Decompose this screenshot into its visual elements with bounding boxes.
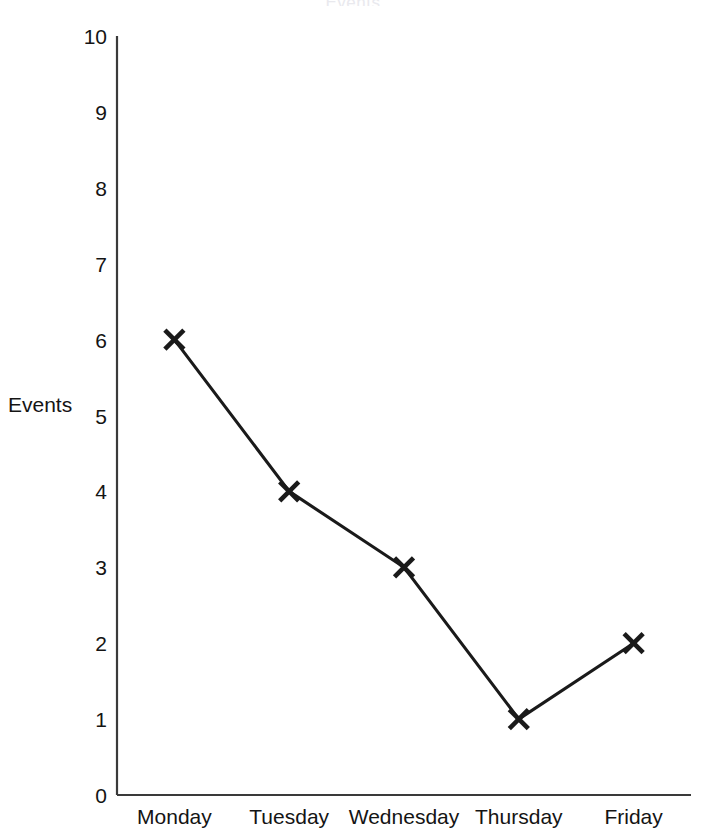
data-markers [165,330,643,728]
plot-area [0,0,703,839]
data-point-marker-x [395,558,414,577]
axes [117,36,691,795]
data-point-marker-x [280,482,299,501]
data-line-events [174,340,633,719]
chart-figure: Events Events 012345678910 MondayTuesday… [0,0,703,839]
data-point-marker-x [624,634,643,653]
data-point-marker-x [509,710,528,729]
data-point-marker-x [165,330,184,349]
